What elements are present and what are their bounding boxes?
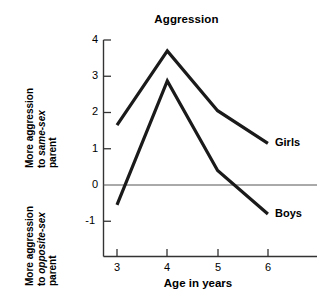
y-axis-caption-upper: More aggression to same-sex parent (24, 88, 59, 168)
y-tick-label-4: 4 (76, 33, 98, 45)
y-axis-caption-lower: More aggression to opposite-sex parent (24, 206, 59, 286)
y-tick-label-3: 3 (76, 69, 98, 81)
y-caption-lower-line2-prefix: to (36, 274, 47, 286)
y-caption-lower-line1: More aggression (24, 206, 36, 286)
x-axis-title: Age in years (103, 277, 293, 289)
y-tick-label-2: 2 (76, 105, 98, 117)
y-caption-upper-line2: to same-sex (36, 88, 48, 168)
series-label-girls: Girls (275, 136, 300, 148)
series-line-girls (117, 51, 268, 143)
y-caption-lower-line2: to opposite-sex (36, 206, 48, 286)
y-caption-upper-line3: parent (47, 88, 59, 168)
chart-container: Aggression 4 3 2 1 0 -1 3 4 5 6 Age in y… (0, 0, 325, 303)
y-caption-upper-line1: More aggression (24, 88, 36, 168)
x-tick-label-4: 4 (155, 261, 179, 273)
x-tick-label-3: 3 (105, 261, 129, 273)
y-tick-label-1: 1 (76, 142, 98, 154)
series-line-boys (117, 81, 268, 214)
y-tick-label-0: 0 (76, 178, 98, 190)
y-caption-upper-line2-prefix: to (36, 156, 47, 168)
y-tick-label-minus1: -1 (73, 214, 95, 226)
y-caption-upper-line2-italic: same-sex (36, 110, 47, 156)
y-caption-lower-line2-italic: opposite-sex (36, 212, 47, 274)
x-tick-label-6: 6 (256, 261, 280, 273)
y-caption-lower-line3: parent (47, 206, 59, 286)
series-label-boys: Boys (275, 207, 302, 219)
x-tick-label-5: 5 (206, 261, 230, 273)
